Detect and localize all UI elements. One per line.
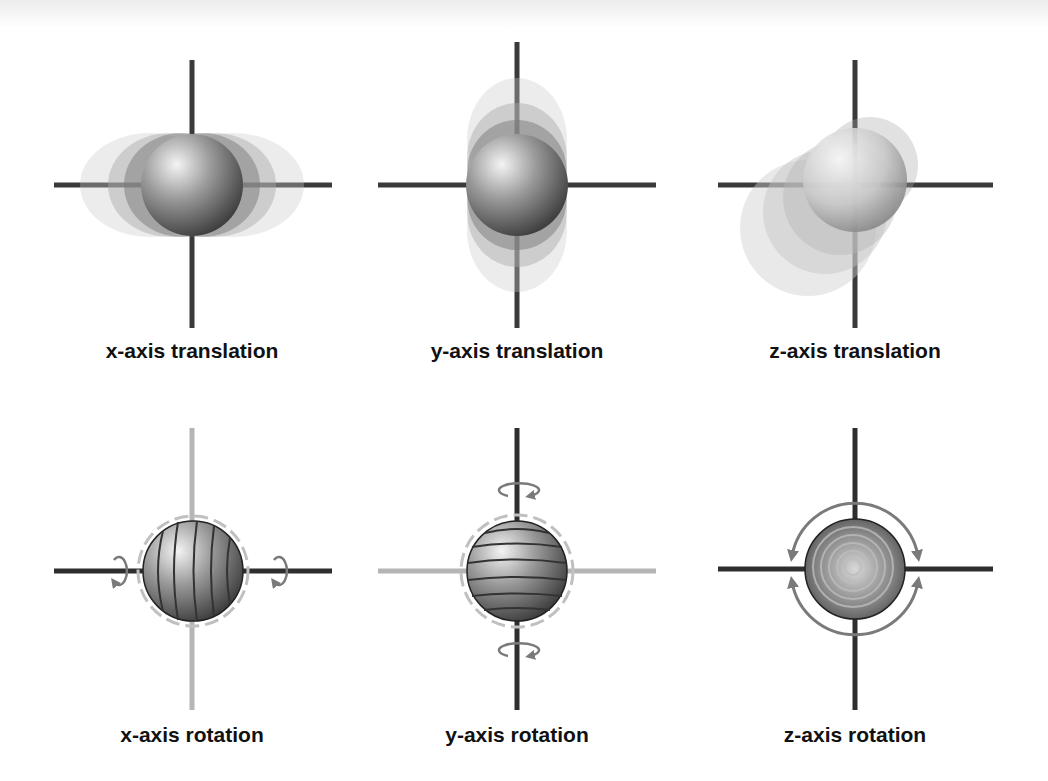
panel-z-translation bbox=[718, 60, 993, 328]
panel-x-translation bbox=[54, 60, 332, 328]
sphere bbox=[141, 134, 243, 236]
sphere bbox=[803, 128, 907, 232]
sphere bbox=[466, 134, 568, 236]
label-z-rotation: z-axis rotation bbox=[705, 723, 1005, 747]
label-x-translation: x-axis translation bbox=[42, 339, 342, 363]
label-y-rotation: y-axis rotation bbox=[367, 723, 667, 747]
panel-y-rotation bbox=[378, 428, 656, 710]
label-x-rotation: x-axis rotation bbox=[42, 723, 342, 747]
panel-x-rotation bbox=[54, 428, 332, 710]
sphere bbox=[467, 521, 567, 621]
motion-diagram bbox=[0, 0, 1048, 781]
label-z-translation: z-axis translation bbox=[705, 339, 1005, 363]
panel-y-translation bbox=[378, 42, 656, 328]
sphere bbox=[805, 519, 905, 619]
label-y-translation: y-axis translation bbox=[367, 339, 667, 363]
panel-z-rotation bbox=[718, 428, 993, 710]
